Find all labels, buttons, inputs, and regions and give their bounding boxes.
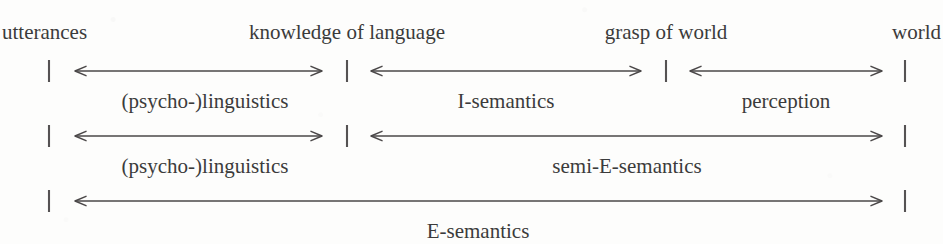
arrow-span-i-semantics [371, 66, 641, 75]
arrow-span-e-semantics [75, 196, 882, 205]
arrow-layer [0, 0, 943, 244]
arrow-label-perception: perception [742, 91, 831, 112]
arrow-label-e-semantics: E-semantics [427, 221, 530, 242]
arrow-label-psycho-linguistics-1: (psycho-)linguistics [122, 91, 289, 112]
arrow-span-psycho-linguistics-2 [75, 131, 322, 140]
arrow-span-semi-e-semantics [371, 131, 882, 140]
arrow-label-i-semantics: I-semantics [458, 91, 555, 112]
arrow-span-psycho-linguistics-1 [75, 66, 322, 75]
scale-diagram: utterancesknowledge of languagegrasp of … [0, 0, 943, 244]
arrow-span-perception [690, 66, 882, 75]
arrow-label-psycho-linguistics-2: (psycho-)linguistics [122, 156, 289, 177]
arrow-label-semi-e-semantics: semi-E-semantics [552, 156, 701, 177]
